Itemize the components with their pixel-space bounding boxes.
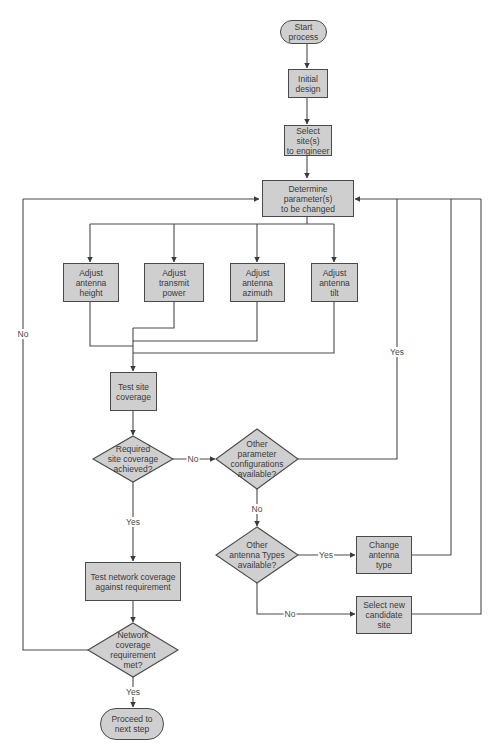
change-antenna-type-label: Change antenna type bbox=[369, 540, 400, 570]
adjust-antenna-height-box: Adjust antenna height bbox=[63, 263, 119, 302]
test-network-coverage-box: Test network coverage against requiremen… bbox=[85, 562, 181, 601]
edge-label-site-yes: Yes bbox=[125, 517, 141, 527]
test-site-coverage-box: Test site coverage bbox=[110, 372, 157, 411]
determine-parameters-box: Determine parameter(s) to be changed bbox=[262, 180, 354, 217]
edge-label-network-no: No bbox=[17, 329, 30, 339]
network-coverage-decision-text: Network coverage requirement met? bbox=[88, 623, 178, 677]
connector-lines bbox=[0, 0, 498, 754]
site-coverage-decision-label: Required site coverage achieved? bbox=[108, 444, 159, 474]
select-new-candidate-site-label: Select new candidate site bbox=[363, 600, 405, 630]
network-coverage-decision-label: Network coverage requirement met? bbox=[110, 630, 155, 670]
proceed-next-step-terminator: Proceed to next step bbox=[100, 708, 164, 740]
test-network-coverage-label: Test network coverage against requiremen… bbox=[90, 572, 175, 592]
flowchart: Start process Initial design Select site… bbox=[0, 0, 498, 754]
determine-parameters-label: Determine parameter(s) to be changed bbox=[281, 184, 335, 214]
adjust-transmit-power-box: Adjust transmit power bbox=[144, 263, 204, 302]
change-antenna-type-box: Change antenna type bbox=[356, 536, 412, 574]
select-sites-box: Select site(s) to engineer bbox=[284, 125, 332, 156]
other-antenna-decision-label: Other antenna Types available? bbox=[229, 540, 285, 570]
initial-design-box: Initial design bbox=[288, 69, 328, 98]
initial-design-label: Initial design bbox=[295, 74, 320, 94]
edge-label-antenna-no: No bbox=[284, 609, 297, 619]
test-site-coverage-label: Test site coverage bbox=[116, 382, 151, 402]
edge-label-antenna-yes: Yes bbox=[318, 550, 334, 560]
adjust-antenna-height-label: Adjust antenna height bbox=[76, 268, 107, 298]
other-antenna-decision-text: Other antenna Types available? bbox=[216, 527, 298, 583]
site-coverage-decision-text: Required site coverage achieved? bbox=[93, 436, 173, 482]
edge-label-site-no: No bbox=[187, 454, 200, 464]
edge-label-params-no: No bbox=[251, 504, 264, 514]
start-process-terminator: Start process bbox=[280, 20, 327, 44]
adjust-transmit-power-label: Adjust transmit power bbox=[159, 268, 189, 298]
proceed-next-step-label: Proceed to next step bbox=[111, 714, 152, 734]
other-params-decision-text: Other parameter configurations available… bbox=[216, 429, 298, 489]
adjust-antenna-tilt-label: Adjust antenna tilt bbox=[319, 268, 350, 298]
other-params-decision-label: Other parameter configurations available… bbox=[231, 439, 284, 479]
edge-label-params-yes: Yes bbox=[389, 347, 405, 357]
select-new-candidate-site-box: Select new candidate site bbox=[356, 596, 412, 634]
edge-label-network-yes: Yes bbox=[125, 687, 141, 697]
start-process-label: Start process bbox=[289, 22, 319, 42]
select-sites-label: Select site(s) to engineer bbox=[285, 126, 331, 156]
adjust-antenna-azimuth-box: Adjust antenna azimuth bbox=[230, 263, 285, 302]
adjust-antenna-tilt-box: Adjust antenna tilt bbox=[311, 263, 358, 302]
adjust-antenna-azimuth-label: Adjust antenna azimuth bbox=[242, 268, 273, 298]
